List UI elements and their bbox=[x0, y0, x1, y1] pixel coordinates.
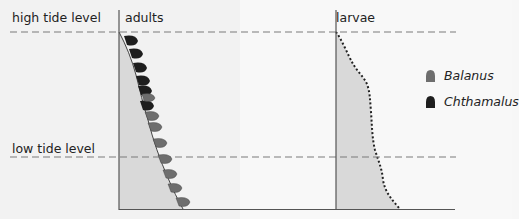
legend-label-balanus: Balanus bbox=[444, 68, 494, 83]
low-tide-label: low tide level bbox=[12, 141, 95, 156]
larvae-panel-title: larvae bbox=[336, 10, 375, 25]
chthamalus-legend-icon bbox=[426, 96, 435, 108]
high-tide-label: high tide level bbox=[12, 10, 101, 25]
legend-label-chthamalus: Chthamalus bbox=[444, 94, 519, 109]
adults-panel-title: adults bbox=[125, 10, 163, 25]
balanus-legend-icon bbox=[426, 70, 435, 82]
